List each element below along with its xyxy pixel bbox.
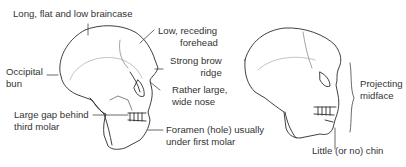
right-skull-drawing [245, 28, 341, 138]
label-brow-line1: Strong brow [170, 55, 222, 67]
label-gap-line1: Large gap behind [14, 109, 89, 121]
label-occipital-line2: bun [6, 78, 43, 90]
label-forehead-line1: Low, receding [158, 25, 218, 37]
label-molar-gap: Large gap behind third molar [14, 109, 89, 132]
label-foramen-line1: Foramen (hole) usually [166, 124, 264, 136]
label-gap-line2: third molar [14, 121, 89, 133]
label-forehead: Low, receding forehead [158, 25, 218, 48]
label-nose-line2: wide nose [172, 96, 227, 108]
label-nose-line1: Rather large, [172, 84, 227, 96]
label-brow-ridge: Strong brow ridge [170, 55, 222, 78]
label-brow-line2: ridge [170, 67, 222, 79]
label-foramen-line2: under first molar [166, 136, 264, 148]
label-midface: Projecting midface [360, 78, 403, 101]
label-midface-line2: midface [360, 90, 403, 102]
label-occipital: Occipital bun [6, 66, 43, 89]
label-foramen: Foramen (hole) usually under first molar [166, 124, 264, 147]
label-chin: Little (or no) chin [312, 145, 383, 157]
label-braincase: Long, flat and low braincase [13, 8, 132, 20]
label-occipital-line1: Occipital [6, 66, 43, 78]
label-nose: Rather large, wide nose [172, 84, 227, 107]
label-forehead-line2: forehead [158, 37, 218, 49]
label-midface-line1: Projecting [360, 78, 403, 90]
